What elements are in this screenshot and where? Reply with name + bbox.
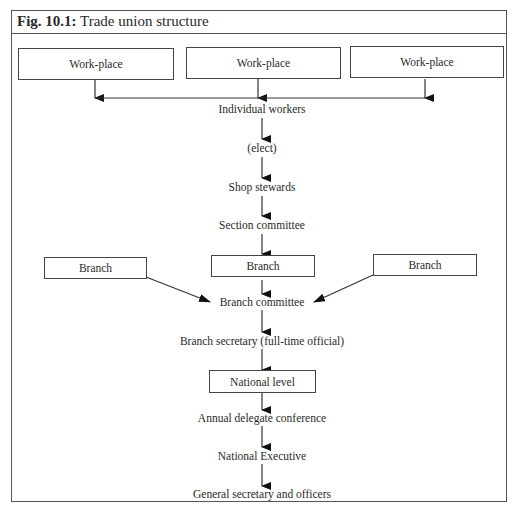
node-individual-workers: Individual workers: [218, 103, 305, 115]
node-annual-delegate-conference: Annual delegate conference: [198, 412, 326, 424]
branch-box-right: Branch: [373, 254, 477, 276]
national-level-label: National level: [230, 376, 295, 388]
branch-label: Branch: [246, 260, 279, 272]
national-level-box: National level: [209, 370, 316, 393]
node-branch-committee: Branch committee: [220, 296, 305, 308]
node-shop-stewards: Shop stewards: [229, 181, 296, 193]
branch-label: Branch: [79, 262, 112, 274]
workplace-box-3: Work-place: [350, 46, 504, 78]
branch-box-left: Branch: [44, 257, 147, 279]
node-section-committee: Section committee: [219, 219, 305, 231]
node-elect: (elect): [247, 142, 276, 154]
workplace-box-2: Work-place: [186, 47, 341, 79]
node-national-executive: National Executive: [218, 450, 306, 462]
branch-label: Branch: [408, 259, 441, 271]
workplace-box-1: Work-place: [18, 48, 174, 80]
branch-box-center: Branch: [211, 255, 315, 277]
workplace-label: Work-place: [237, 57, 290, 69]
node-branch-secretary: Branch secretary (full-time official): [180, 335, 344, 347]
node-general-secretary: General secretary and officers: [193, 488, 331, 500]
workplace-label: Work-place: [400, 56, 453, 68]
workplace-label: Work-place: [69, 58, 122, 70]
